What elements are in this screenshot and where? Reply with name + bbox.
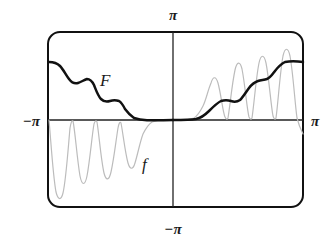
f-curve-left bbox=[49, 120, 173, 199]
figure-root: F f π −π −π π bbox=[0, 0, 333, 243]
curve-label-f: f bbox=[142, 155, 149, 174]
axis-label-right: π bbox=[311, 113, 320, 129]
F-curve-right bbox=[173, 61, 303, 120]
axis-label-bottom: −π bbox=[164, 221, 182, 237]
plot-canvas: F f π −π −π π bbox=[0, 0, 333, 243]
axis-label-top: π bbox=[169, 7, 178, 23]
F-curve-left bbox=[49, 62, 173, 120]
axis-label-left: −π bbox=[23, 113, 41, 129]
curve-label-F: F bbox=[99, 71, 111, 90]
